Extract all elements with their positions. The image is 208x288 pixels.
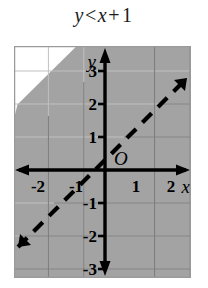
origin-label: O	[114, 148, 128, 169]
y-tick-label-neg1: -1	[83, 194, 97, 213]
title-lhs-variable: y	[75, 4, 84, 26]
figure-title: y<x+1	[0, 4, 208, 27]
title-inequality-operator: <	[84, 4, 98, 26]
y-axis-label: y	[86, 51, 97, 72]
y-tick-label-2: 2	[89, 95, 98, 114]
coordinate-plane: 3 2 1 -1 -2 -3 -2 -1 1 2 O y	[14, 46, 191, 278]
y-tick-label-1: 1	[89, 128, 98, 147]
title-plus-operator: +	[107, 4, 121, 26]
x-tick-label-1: 1	[132, 177, 141, 196]
title-constant: 1	[121, 4, 134, 26]
y-tick-label-neg3: -3	[83, 260, 97, 278]
inequality-graph-figure: y<x+1	[0, 0, 208, 288]
x-tick-label-neg2: -2	[31, 177, 45, 196]
x-tick-label-neg1: -1	[69, 177, 83, 196]
x-tick-label-2: 2	[167, 177, 176, 196]
y-tick-label-neg2: -2	[83, 227, 97, 246]
coordinate-plane-svg: 3 2 1 -1 -2 -3 -2 -1 1 2 O y	[14, 46, 191, 278]
x-axis-label: x	[181, 176, 191, 197]
title-rhs-variable: x	[98, 4, 107, 26]
